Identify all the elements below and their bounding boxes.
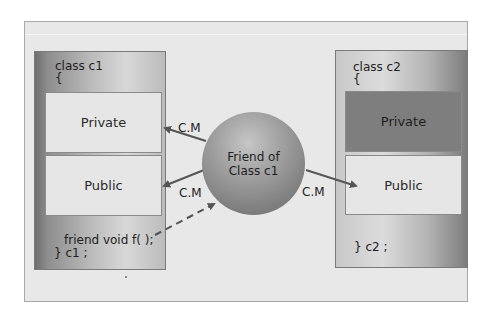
label-cm-private: C.M [178, 121, 201, 135]
dashed-arrow-friend-function [155, 204, 214, 235]
friend-node-line1: Friend of [227, 150, 279, 164]
arrow-to-c2-public [306, 170, 356, 186]
label-cm-public: C.M [179, 186, 202, 200]
stray-dot [125, 276, 127, 278]
label-cm-c2-public: C.M [302, 185, 325, 199]
friend-of-class-c1-node: Friend of Class c1 [202, 112, 305, 215]
friend-node-line2: Class c1 [229, 164, 279, 178]
arrow-to-c1-public [164, 170, 204, 186]
